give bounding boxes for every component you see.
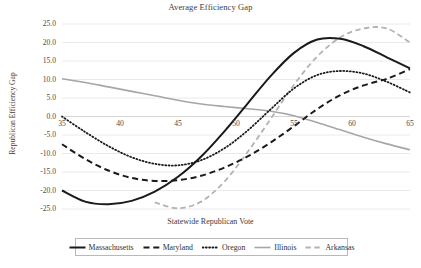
legend-swatch-solid: [69, 244, 86, 251]
x-tick-label: 45: [165, 119, 191, 128]
legend-item-illinois[interactable]: Illinois: [254, 243, 296, 252]
y-tick-label: 10.0: [20, 75, 56, 84]
plot-area: [0, 0, 421, 268]
legend-swatch-dashed: [143, 244, 160, 251]
x-tick-label: 60: [339, 119, 365, 128]
x-tick-label: 40: [107, 119, 133, 128]
legend-item-oregon[interactable]: Oregon: [202, 243, 245, 252]
x-tick-label: 35: [49, 119, 75, 128]
y-tick-label: 15.0: [20, 56, 56, 65]
legend-item-massachusetts[interactable]: Massachusetts: [69, 243, 134, 252]
y-tick-label: 25.0: [20, 19, 56, 28]
legend-label: Massachusetts: [89, 243, 134, 252]
y-tick-label: 20.0: [20, 38, 56, 47]
y-tick-label: -10.0: [20, 149, 56, 158]
legend-swatch-dashed: [305, 244, 322, 251]
series-line-illinois: [62, 79, 410, 150]
legend-label: Illinois: [274, 243, 296, 252]
y-tick-label: -20.0: [20, 186, 56, 195]
legend-label: Maryland: [163, 243, 193, 252]
x-tick-label: 55: [281, 119, 307, 128]
legend-swatch-dotted: [202, 244, 219, 251]
x-tick-label: 65: [397, 119, 421, 128]
y-tick-label: -5.0: [20, 130, 56, 139]
legend-item-maryland[interactable]: Maryland: [143, 243, 193, 252]
chart-container: Average Efficiency Gap Republican Effici…: [0, 0, 421, 268]
legend-item-arkansas[interactable]: Arkansas: [305, 243, 354, 252]
y-tick-label: -15.0: [20, 167, 56, 176]
y-tick-label: -25.0: [20, 204, 56, 213]
legend-swatch-solid: [254, 244, 271, 251]
legend-label: Arkansas: [325, 243, 354, 252]
chart-legend: MassachusettsMarylandOregonIllinoisArkan…: [75, 238, 348, 256]
y-tick-label: 5.0: [20, 93, 56, 102]
legend-label: Oregon: [222, 243, 245, 252]
x-tick-label: 50: [223, 119, 249, 128]
